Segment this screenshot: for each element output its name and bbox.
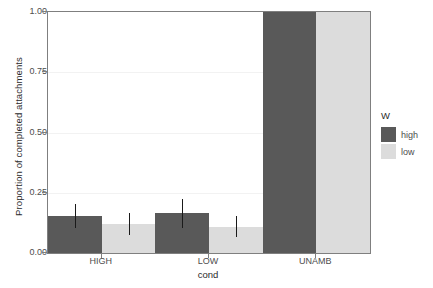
x-axis-title: cond bbox=[47, 269, 369, 280]
legend: W highlow bbox=[381, 110, 418, 160]
legend-item-high[interactable]: high bbox=[381, 126, 418, 143]
legend-label: high bbox=[401, 130, 418, 140]
bar-chart-figure: Proportion of completed attachments 0.00… bbox=[0, 0, 433, 288]
legend-swatch-low bbox=[381, 144, 396, 159]
legend-swatch-high bbox=[381, 127, 396, 142]
x-tick-mark bbox=[315, 253, 316, 258]
legend-title: W bbox=[381, 110, 418, 121]
legend-label: low bbox=[401, 147, 415, 157]
x-tick-mark bbox=[208, 253, 209, 258]
legend-items: highlow bbox=[381, 126, 418, 160]
legend-item-low[interactable]: low bbox=[381, 143, 418, 160]
x-axis-ticks: HIGHLOWUNAMB bbox=[0, 0, 433, 288]
x-tick-mark bbox=[101, 253, 102, 258]
